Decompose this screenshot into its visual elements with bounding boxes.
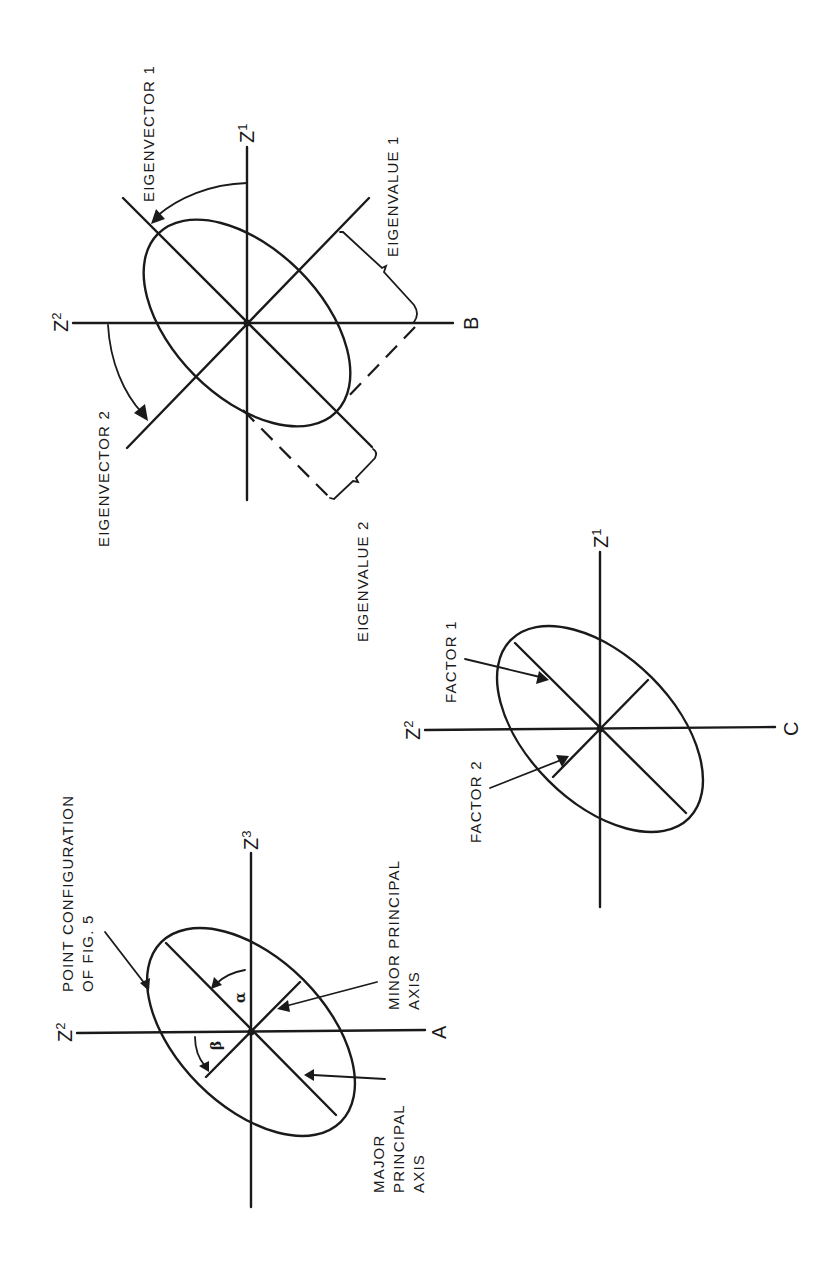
panel-a-point-config-label-line1: POINT CONFIGURATION [59, 795, 76, 992]
figure-canvas: Z2 Z1 B EIGENVECTOR 1 EIGENVECTOR 2 EIGE… [0, 0, 819, 1282]
panel-b: Z2 Z1 B EIGENVECTOR 1 EIGENVECTOR 2 EIGE… [49, 65, 482, 642]
panel-a-point-config-pointer [105, 932, 145, 984]
panel-c-panel-label: C [780, 722, 802, 736]
panel-b-eigenvalue1-label: EIGENVALUE 1 [384, 135, 401, 257]
panel-b-eigenvalue1-brace [340, 232, 417, 322]
panel-a-beta-arrowhead [199, 1061, 209, 1072]
panel-c-origin [597, 726, 604, 733]
panel-b-z2-label: Z2 [49, 313, 72, 332]
panel-a-z3-label: Z3 [239, 831, 262, 850]
panel-c-factor1-arrowhead [536, 671, 549, 684]
panel-b-eigenvector2-arc [108, 325, 143, 414]
panel-b-eigenvalue2-brace [330, 449, 376, 499]
panel-c-factor2-label: FACTOR 2 [467, 760, 484, 843]
panel-a-major-label-line3: AXIS [410, 1154, 427, 1193]
panel-a-alpha-symbol: α [232, 992, 248, 1003]
panel-b-z1-label: Z1 [235, 124, 258, 143]
panel-b-panel-label: B [460, 317, 482, 330]
panel-a-alpha-arrowhead [211, 977, 222, 989]
panel-b-origin [244, 320, 251, 327]
panel-b-eigenvector1-label: EIGENVECTOR 1 [140, 65, 157, 202]
panel-b-eigenvector1-arc [157, 183, 247, 216]
panel-a-beta-symbol: β [208, 1041, 224, 1050]
panel-c-factor1-pointer [465, 659, 540, 677]
panel-b-eigenvalue1-dashed [345, 327, 415, 400]
panel-c: Z2 Z1 C FACTOR 1 FACTOR 2 [401, 529, 802, 907]
panel-b-eigenvector2-label: EIGENVECTOR 2 [95, 410, 112, 547]
panel-a-alpha-arc [216, 970, 245, 984]
panel-a-minor-pointer [286, 982, 377, 1006]
panel-a-origin [248, 1029, 255, 1036]
panel-a-major-label-line2: PRINCIPAL [390, 1104, 407, 1193]
panel-a-major-pointer [313, 1075, 385, 1079]
panel-a-panel-label: A [428, 1025, 450, 1039]
panel-c-z2-label: Z2 [401, 721, 424, 740]
panel-c-z1-label: Z1 [589, 529, 612, 548]
panel-a-major-label-line1: MAJOR [370, 1135, 387, 1194]
panel-a-point-config-label-line2: OF FIG. 5 [79, 915, 96, 992]
panel-a-minor-label-line1: MINOR PRINCIPAL [385, 860, 402, 1010]
panel-a-major-arrowhead [304, 1069, 314, 1081]
panel-a-z2-label: Z2 [53, 1023, 76, 1042]
panel-b-eigenvalue2-label: EIGENVALUE 2 [354, 520, 371, 642]
panel-a-beta-arc [195, 1037, 205, 1066]
panel-c-factor1-label: FACTOR 1 [442, 620, 459, 703]
panel-a: α β Z2 Z3 A POINT CONFIGURATION OF FIG. … [53, 795, 450, 1207]
panel-a-minor-label-line2: AXIS [405, 971, 422, 1010]
